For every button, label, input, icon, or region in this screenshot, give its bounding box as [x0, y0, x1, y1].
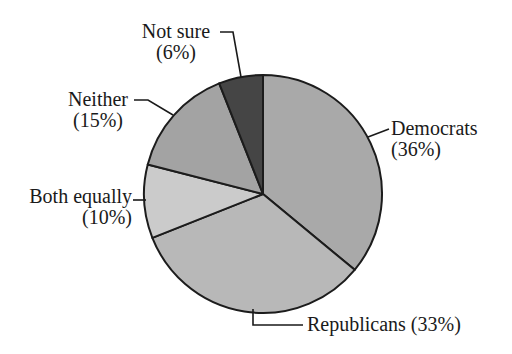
- label-neither-percent: (15%): [52, 110, 144, 131]
- label-republicans-name: Republicans (33%): [307, 314, 461, 335]
- pie-chart-figure: Not sure (6%) Neither (15%) Both equally…: [0, 0, 512, 354]
- leader-line-not-sure: [220, 32, 241, 77]
- label-not-sure: Not sure (6%): [130, 21, 222, 63]
- label-both-equally-percent: (10%): [29, 207, 132, 228]
- label-not-sure-name: Not sure: [130, 21, 222, 42]
- label-democrats-name: Democrats: [391, 118, 478, 139]
- label-neither-name: Neither: [52, 89, 144, 110]
- pie-slices: [144, 75, 382, 313]
- pie-chart: [0, 0, 512, 354]
- label-neither: Neither (15%): [52, 89, 144, 131]
- label-both-equally-name: Both equally: [29, 186, 132, 207]
- label-republicans: Republicans (33%): [307, 314, 461, 335]
- leader-line-democrats: [368, 129, 389, 137]
- label-not-sure-percent: (6%): [130, 42, 222, 63]
- label-democrats: Democrats (36%): [391, 118, 478, 160]
- label-democrats-percent: (36%): [391, 139, 478, 160]
- label-both-equally: Both equally (10%): [29, 186, 132, 228]
